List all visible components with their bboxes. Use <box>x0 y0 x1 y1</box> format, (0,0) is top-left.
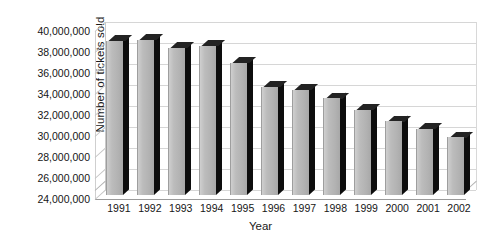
bar[interactable] <box>447 137 464 195</box>
x-axis-tick-label: 1994 <box>200 202 223 214</box>
bar[interactable] <box>323 98 340 195</box>
bar-front-face <box>323 98 340 195</box>
bar[interactable] <box>261 87 278 195</box>
y-axis-tick-label: 28,000,000 <box>37 151 90 163</box>
x-axis-tick-label: 2001 <box>416 202 439 214</box>
x-axis-tick-label: 1999 <box>355 202 378 214</box>
bar-front-face <box>354 110 371 195</box>
x-axis-tick-label: 1995 <box>231 202 254 214</box>
x-axis-title-text: Year <box>249 220 272 232</box>
bar-front-face <box>230 63 247 195</box>
bar[interactable] <box>292 90 309 195</box>
bar-front-face <box>292 90 309 195</box>
plot-area <box>95 22 476 199</box>
y-axis-tick-labels: 40,000,00038,000,00036,000,00034,000,000… <box>26 14 92 206</box>
bar-front-face <box>106 41 123 195</box>
x-axis-tick-label: 2002 <box>447 202 470 214</box>
bar[interactable] <box>106 41 123 195</box>
bar[interactable] <box>199 46 216 195</box>
y-axis-tick-label: 40,000,000 <box>37 25 90 37</box>
x-axis-tick-label: 1996 <box>262 202 285 214</box>
bar-front-face <box>168 48 185 195</box>
bar-side-face <box>185 43 191 195</box>
y-axis-tick-label: 30,000,000 <box>37 130 90 142</box>
bar-front-face <box>385 121 402 195</box>
bar[interactable] <box>354 110 371 195</box>
bar-side-face <box>278 81 284 195</box>
bar-side-face <box>309 85 315 195</box>
x-axis-tick-label: 1991 <box>107 202 130 214</box>
x-axis-tick-label: 2000 <box>386 202 409 214</box>
x-axis-tick-label: 1997 <box>293 202 316 214</box>
bar[interactable] <box>137 40 154 195</box>
bar-side-face <box>433 123 439 195</box>
x-axis-tick-label: 1992 <box>138 202 161 214</box>
bar[interactable] <box>385 121 402 195</box>
plot-right-wall-edge <box>476 22 477 190</box>
bar-front-face <box>261 87 278 195</box>
y-axis-tick-label: 34,000,000 <box>37 88 90 100</box>
bar[interactable] <box>416 129 433 195</box>
bar-side-face <box>340 93 346 195</box>
x-axis-tick-label: 1993 <box>169 202 192 214</box>
bar-side-face <box>402 116 408 195</box>
bar-front-face <box>137 40 154 195</box>
bar-front-face <box>199 46 216 195</box>
bar[interactable] <box>168 48 185 195</box>
bar[interactable] <box>230 63 247 195</box>
plot-floor-front-edge <box>95 199 466 200</box>
bar-side-face <box>123 35 129 195</box>
x-axis-tick-labels: 1991199219931994199519961997199819992000… <box>95 202 485 218</box>
bar-front-face <box>416 129 433 195</box>
bar-series <box>95 22 476 199</box>
y-axis-tick-label: 32,000,000 <box>37 109 90 121</box>
x-axis-tick-label: 1998 <box>324 202 347 214</box>
bar-front-face <box>447 137 464 195</box>
bar-side-face <box>371 105 377 195</box>
bar-side-face <box>247 57 253 195</box>
bar-side-face <box>464 132 470 195</box>
x-axis-title: Year <box>0 220 489 232</box>
y-axis-tick-label: 24,000,000 <box>37 193 90 205</box>
bar-side-face <box>154 34 160 195</box>
y-axis-tick-label: 38,000,000 <box>37 46 90 58</box>
chart-screenshot: Number of tickets sold 40,000,00038,000,… <box>0 0 489 249</box>
y-axis-tick-label: 26,000,000 <box>37 172 90 184</box>
y-axis-tick-label: 36,000,000 <box>37 67 90 79</box>
bar-side-face <box>216 40 222 194</box>
